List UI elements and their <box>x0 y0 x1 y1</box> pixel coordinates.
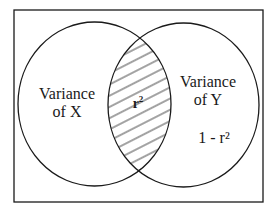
overlap-region <box>108 23 259 187</box>
set-x-label-line1: Variance <box>39 85 95 102</box>
set-y-unexplained-label: 1 - r² <box>198 129 230 146</box>
set-y-label-line2: of Y <box>194 91 223 108</box>
set-x-label-line2: of X <box>53 103 82 120</box>
set-y-label-line1: Variance <box>180 73 236 90</box>
venn-diagram: Variance of X Variance of Y 1 - r² r2 <box>0 0 277 213</box>
